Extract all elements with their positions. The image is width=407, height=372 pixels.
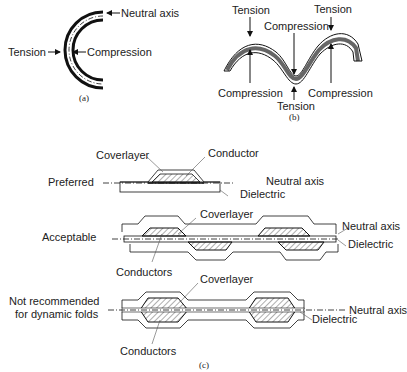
panel-b-tension-left-label: Tension: [232, 4, 270, 16]
acceptable-dielectric-label: Dielectric: [348, 238, 394, 250]
panel-b-compression-right-label: Compression: [308, 87, 373, 99]
panel-a-caption: (a): [79, 93, 89, 103]
preferred-conductor-label: Conductor: [208, 147, 259, 159]
panel-a-semicircle-bend: Neutral axis Tension Compression (a): [8, 7, 180, 103]
panel-b-tension-bottom-label: Tension: [277, 100, 315, 112]
panel-c-not-recommended: Not recommended for dynamic folds Coverl…: [9, 273, 407, 357]
panel-b-sine-bend: Tension Tension Compression Compression …: [218, 3, 373, 122]
panel-b-caption: (b): [289, 112, 300, 122]
not-recommended-neutral-axis-label: Neutral axis: [349, 304, 407, 316]
preferred-neutral-axis-label: Neutral axis: [266, 175, 325, 187]
not-recommended-dielectric-label: Dielectric: [312, 313, 358, 325]
panel-b-compression-left-label: Compression: [218, 87, 283, 99]
not-recommended-row-label-line2: for dynamic folds: [15, 308, 99, 320]
panel-c-preferred: Preferred Coverlayer Conductor Neutral a…: [48, 147, 325, 200]
panel-c-acceptable: Acceptable Coverlayer Conductors Neutral…: [42, 208, 401, 278]
flex-circuit-bending-diagram: Neutral axis Tension Compression (a) Ten…: [0, 0, 407, 372]
not-recommended-coverlayer-label: Coverlayer: [200, 273, 254, 285]
not-recommended-row-label-line1: Not recommended: [9, 295, 100, 307]
not-recommended-conductors-label: Conductors: [120, 345, 177, 357]
panel-a-tension-label: Tension: [8, 46, 46, 58]
acceptable-neutral-axis-label: Neutral axis: [342, 220, 401, 232]
acceptable-row-label: Acceptable: [42, 231, 96, 243]
preferred-coverlayer-label: Coverlayer: [96, 149, 150, 161]
acceptable-coverlayer-label: Coverlayer: [200, 208, 254, 220]
preferred-dielectric-label: Dielectric: [240, 188, 286, 200]
acceptable-conductors-label: Conductors: [116, 266, 173, 278]
panel-a-compression-label: Compression: [87, 46, 152, 58]
panel-c-caption: (c): [199, 360, 209, 370]
panel-b-tension-right-label: Tension: [314, 3, 352, 15]
panel-a-neutral-axis-label: Neutral axis: [121, 7, 180, 19]
preferred-row-label: Preferred: [48, 176, 94, 188]
panel-b-compression-top-label: Compression: [264, 20, 329, 32]
